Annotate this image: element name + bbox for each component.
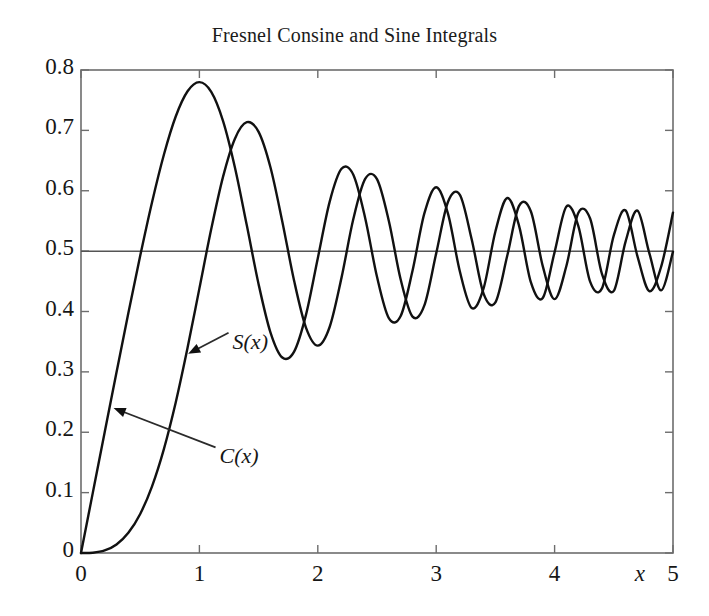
plot-frame: [81, 70, 673, 553]
y-tick-label: 0.7: [45, 114, 74, 140]
y-tick-label: 0.5: [45, 235, 74, 261]
curve-cx: [81, 82, 673, 553]
y-tick-label: 0.8: [45, 54, 74, 80]
x-tick-label: 4: [525, 561, 585, 587]
series-paths: [81, 82, 673, 553]
fresnel-integrals-figure: Fresnel Consine and Sine Integrals 00.10…: [0, 0, 709, 616]
tick-marks: [81, 70, 673, 553]
y-tick-label: 0.6: [45, 175, 74, 201]
x-axis-label: x: [635, 561, 645, 587]
y-tick-label: 0: [63, 537, 75, 563]
annotation-label-cx: C(x): [220, 443, 259, 469]
annotation-label-sx: S(x): [233, 329, 268, 355]
curve-sx: [81, 122, 673, 553]
annotation-arrows: [114, 333, 229, 448]
x-tick-label: 1: [169, 561, 229, 587]
y-tick-label: 0.1: [45, 477, 74, 503]
annotation-arrow-head: [188, 344, 201, 354]
x-tick-label: 0: [51, 561, 111, 587]
x-tick-label: 5: [643, 561, 703, 587]
y-tick-label: 0.3: [45, 356, 74, 382]
y-tick-label: 0.2: [45, 416, 74, 442]
annotation-arrow-head: [114, 408, 127, 417]
plot-canvas: [0, 0, 709, 616]
x-tick-label: 3: [406, 561, 466, 587]
y-tick-label: 0.4: [45, 296, 74, 322]
x-tick-label: 2: [288, 561, 348, 587]
annotation-leader-line: [119, 410, 215, 447]
